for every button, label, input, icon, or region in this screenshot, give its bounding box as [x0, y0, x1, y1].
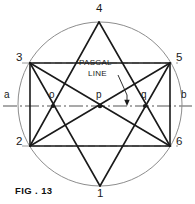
vertex-label-6: 6	[176, 136, 182, 147]
vertex-label-1: 1	[97, 188, 103, 199]
hexagram-drawing	[0, 0, 195, 204]
point-q-dot	[143, 104, 147, 108]
point-label-p: p	[96, 89, 102, 100]
pascal-annotation-line2: LINE	[88, 68, 107, 79]
pascal-annotation-line1: PASCAL	[79, 57, 112, 68]
vertex-label-4: 4	[96, 3, 102, 14]
point-o-dot	[51, 104, 55, 108]
figure-13-pascal-line-diagram: 4 3 5 2 6 1 o p q a b PASCAL LINE FIG . …	[0, 0, 195, 204]
vertex-label-2: 2	[16, 136, 22, 147]
point-label-q: q	[141, 89, 147, 100]
vertex-label-3: 3	[16, 52, 22, 63]
pointer-arrowhead-icon	[124, 100, 129, 106]
axis-label-b: b	[181, 89, 187, 100]
point-label-o: o	[49, 89, 55, 100]
figure-caption: FIG . 13	[15, 185, 53, 196]
axis-label-a: a	[4, 89, 10, 100]
point-p-dot	[98, 104, 103, 109]
vertex-label-5: 5	[176, 52, 182, 63]
